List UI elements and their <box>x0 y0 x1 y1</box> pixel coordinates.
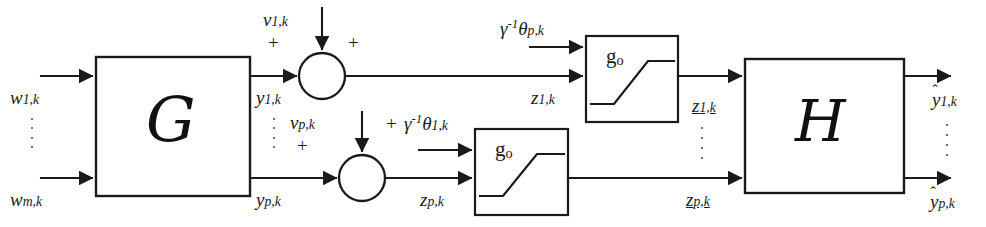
sum-signal-label-z1k: z1,k <box>531 88 555 107</box>
dither-label-top: γ-1θp,k <box>500 18 544 38</box>
summing-junction-bottom <box>339 155 385 201</box>
saturation-block-top-label: go <box>606 46 624 67</box>
saturation-block-bottom-label: go <box>495 139 513 160</box>
sign-plus-top-noise: + <box>348 33 359 52</box>
quantized-label-z1k: z1,k <box>692 96 716 115</box>
summing-junction-top <box>299 53 345 99</box>
output-block-h-label: H <box>795 92 846 150</box>
sum-signal-label-zpk: zp,k <box>420 190 444 209</box>
plant-output-ellipsis <box>272 118 276 148</box>
estimated-output-label-ypk: ˆyp,k <box>930 192 955 211</box>
saturation-block-top-rect <box>586 36 678 122</box>
quantized-ellipsis <box>700 127 704 159</box>
sign-plus-bottom-noise: + <box>297 136 308 155</box>
block-diagram-figure: w1,k wm,k G y1,k yp,k v1,k + + vp,k + + … <box>0 0 986 227</box>
sign-plus-top-signal: + <box>268 33 279 52</box>
plant-output-label-ypk: yp,k <box>256 190 281 209</box>
plant-output-label-y1k: y1,k <box>256 88 281 107</box>
quantized-label-zpk: zp,k <box>686 190 710 209</box>
plant-block-g-label: G <box>146 89 196 151</box>
input-label-wmk: wm,k <box>10 190 42 209</box>
sign-plus-bottom-dither: + <box>386 114 397 133</box>
noise-label-vpk: vp,k <box>290 113 315 132</box>
dither-label-bottom: γ-1θ1,k <box>404 113 448 133</box>
estimated-output-label-y1k: ˆy1,k <box>932 90 957 109</box>
estimated-output-ellipsis <box>945 124 949 156</box>
input-label-w1k: w1,k <box>10 88 39 107</box>
noise-label-v1k: v1,k <box>263 10 288 29</box>
input-ellipsis <box>30 118 34 148</box>
